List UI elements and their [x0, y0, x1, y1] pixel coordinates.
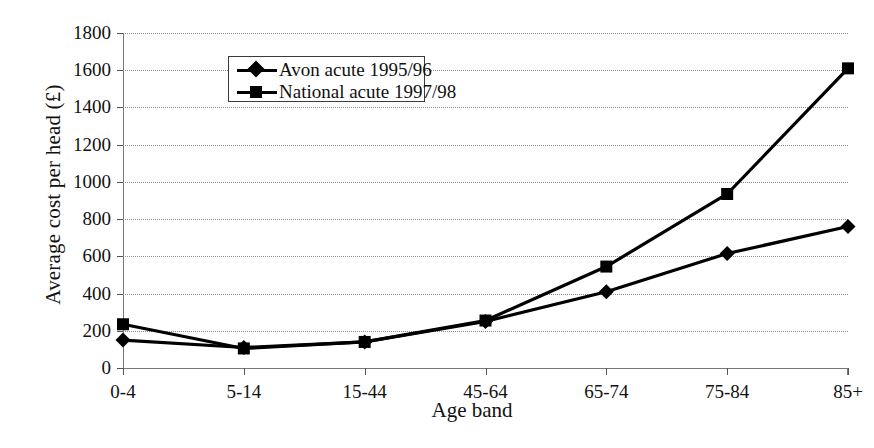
legend-item-national: National acute 1997/98 — [235, 81, 424, 103]
data-point-square — [721, 188, 733, 200]
data-point-diamond — [599, 284, 614, 299]
data-point-square — [238, 342, 250, 354]
y-tick-label: 1000 — [73, 171, 111, 193]
data-point-diamond — [720, 246, 735, 261]
data-point-diamond — [841, 219, 856, 234]
series-national — [117, 62, 854, 354]
y-tick-label: 800 — [83, 208, 112, 230]
legend-label-national: National acute 1997/98 — [279, 81, 456, 103]
x-tick-mark — [727, 368, 728, 375]
legend-label-avon: Avon acute 1995/96 — [279, 59, 432, 81]
series-line — [123, 227, 848, 348]
y-axis-title: Average cost per head (£) — [41, 30, 66, 360]
y-tick-label: 1600 — [73, 59, 111, 81]
y-tick-label: 1800 — [73, 22, 111, 44]
y-tick-label: 600 — [83, 245, 112, 267]
x-tick-mark — [244, 368, 245, 375]
legend-item-avon: Avon acute 1995/96 — [235, 59, 424, 81]
series-line — [123, 68, 848, 348]
x-tick-mark — [365, 368, 366, 375]
x-tick-mark — [848, 368, 849, 375]
diamond-marker-icon — [235, 60, 279, 80]
y-tick-label: 1200 — [73, 134, 111, 156]
chart-legend: Avon acute 1995/96 National acute 1997/9… — [228, 56, 425, 102]
y-tick-label: 1400 — [73, 96, 111, 118]
x-tick-mark — [123, 368, 124, 375]
y-tick-label: 0 — [102, 357, 112, 379]
x-axis-title-text: Age band — [431, 398, 512, 422]
y-tick-label: 400 — [83, 283, 112, 305]
data-point-square — [359, 336, 371, 348]
data-point-square — [480, 315, 492, 327]
x-axis-title: Age band — [0, 398, 874, 423]
x-tick-mark — [606, 368, 607, 375]
y-tick-label: 200 — [83, 320, 112, 342]
data-point-square — [842, 62, 854, 74]
data-point-square — [600, 261, 612, 273]
x-tick-mark — [486, 368, 487, 375]
chart-figure: Average cost per head (£) 02004006008001… — [0, 0, 874, 448]
data-point-diamond — [116, 333, 131, 348]
series-avon — [116, 219, 856, 355]
data-point-square — [117, 318, 129, 330]
square-marker-icon — [235, 82, 279, 102]
